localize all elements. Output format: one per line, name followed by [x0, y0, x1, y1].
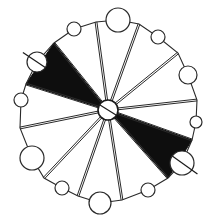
rim-node [55, 181, 69, 195]
rim-node [89, 192, 111, 214]
rim-node [179, 66, 197, 84]
spoke [20, 109, 108, 127]
rim-node [14, 93, 28, 107]
rim-node [67, 22, 81, 36]
spoke [45, 111, 109, 179]
wheel-diagram [0, 0, 214, 222]
spoke [20, 111, 108, 129]
rim-node [151, 30, 165, 44]
rim-node [141, 183, 155, 197]
spoke [77, 110, 107, 196]
wheel-diagram-canvas [0, 0, 214, 222]
rim-node [106, 8, 130, 32]
rim-node [20, 146, 44, 170]
spoke [108, 101, 197, 111]
rim-node [190, 116, 202, 128]
